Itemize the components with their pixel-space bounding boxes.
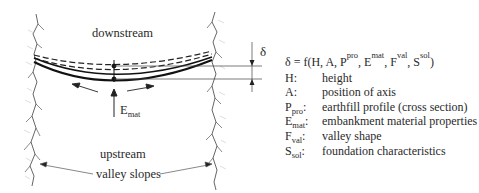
label-delta: δ <box>260 45 266 58</box>
label-upstream: upstream <box>100 148 146 161</box>
emat-arrow <box>111 89 117 117</box>
legend-item-material: Emat: embankment material properties <box>285 114 477 129</box>
legend-item-valley: Fval: valley shape <box>285 129 477 144</box>
delta-reference-lines <box>114 42 262 92</box>
legend-item-height: H: height <box>285 71 477 86</box>
right-slope-hatch <box>218 20 226 169</box>
left-slope-hatch <box>24 30 34 179</box>
label-downstream: downstream <box>92 27 153 40</box>
legend-item-profile: Ppro: earthfill profile (cross section) <box>285 100 477 115</box>
label-valley-slopes: valley slopes <box>96 168 161 181</box>
emat-sub: mat <box>128 109 141 119</box>
formula: δ = f(H, A, Ppro, Emat, Fval, Ssol) <box>285 55 477 70</box>
legend-item-axis: A: position of axis <box>285 85 477 100</box>
label-emat: Emat <box>120 104 140 117</box>
emat-symbol: E <box>120 103 128 117</box>
legend: δ = f(H, A, Ppro, Emat, Fval, Ssol) H: h… <box>285 55 477 158</box>
legend-item-foundation: Ssol: foundation characteristics <box>285 144 477 159</box>
left-valley-slope <box>24 14 44 186</box>
